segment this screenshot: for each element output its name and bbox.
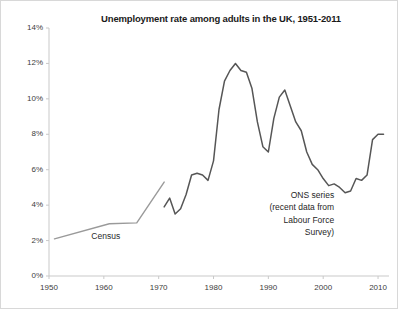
ons-annotation-label: ONS series (recent data from Labour Forc… [238,189,334,239]
x-tick-label: 1960 [84,283,124,292]
x-tick-label: 2010 [358,283,398,292]
y-tick-label: 12% [11,58,43,67]
plot-area [1,1,399,310]
x-tick-label: 2000 [303,283,343,292]
chart-container: Unemployment rate among adults in the UK… [0,0,398,309]
y-tick-label: 2% [11,236,43,245]
x-tick-label: 1990 [248,283,288,292]
ons-annotation-line-2: (recent data from [238,201,334,214]
y-tick-label: 6% [11,165,43,174]
x-tick-label: 1970 [139,283,179,292]
x-tick-label: 1950 [29,283,69,292]
y-tick-label: 8% [11,129,43,138]
ons-annotation-line-3: Labour Force [238,214,334,227]
ons-annotation-line-4: Survey) [238,226,334,239]
census-annotation-label: Census [91,231,120,241]
y-tick-label: 0% [11,271,43,280]
ons-annotation-line-1: ONS series [238,189,334,202]
y-tick-label: 10% [11,94,43,103]
y-tick-label: 4% [11,200,43,209]
x-tick-label: 1980 [194,283,234,292]
y-tick-label: 14% [11,23,43,32]
